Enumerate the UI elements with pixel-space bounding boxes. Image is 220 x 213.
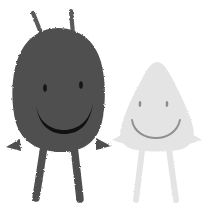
creatures-illustration — [0, 0, 220, 213]
illustration-canvas: Two smiling creature characters Large da… — [0, 0, 220, 213]
dark-creature-eye-right — [79, 81, 83, 89]
light-creature-eye-left — [139, 101, 142, 107]
dark-creature-eye-left — [43, 84, 47, 92]
light-creature-eye-right — [166, 101, 169, 107]
